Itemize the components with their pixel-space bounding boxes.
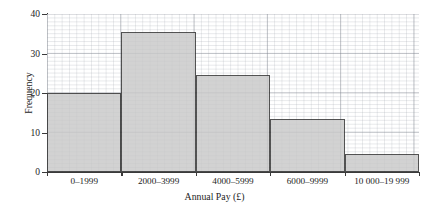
- histogram-bar: [121, 32, 195, 172]
- histogram-bar: [47, 93, 121, 172]
- y-axis-tick-label: 20: [31, 88, 41, 98]
- x-axis-tick: [121, 172, 122, 176]
- x-axis-tick-label: 0–1999: [70, 176, 98, 186]
- x-axis-tick: [47, 172, 48, 176]
- y-axis-tick: [42, 93, 47, 94]
- x-axis-title: Annual Pay (£): [0, 191, 429, 202]
- y-axis-tick: [42, 133, 47, 134]
- x-axis-tick-label: 2000–3999: [138, 176, 179, 186]
- histogram-bar: [345, 154, 419, 172]
- y-axis-tick-label: 30: [31, 49, 41, 59]
- x-axis-tick: [270, 172, 271, 176]
- x-axis-tick: [345, 172, 346, 176]
- x-axis-line: [46, 172, 420, 173]
- y-axis-tick-label: 0: [35, 167, 40, 177]
- y-axis-tick-label: 10: [31, 128, 41, 138]
- histogram-bar: [270, 119, 344, 172]
- x-axis-tick: [196, 172, 197, 176]
- histogram-bar: [196, 75, 270, 172]
- x-axis-tick-label: 10 000–19 999: [354, 176, 409, 186]
- histogram-figure: Frequency 010203040 0–19992000–39994000–…: [0, 0, 429, 211]
- plot-area: 010203040 0–19992000–39994000–59996000–9…: [47, 14, 419, 172]
- x-axis-tick-label: 6000–9999: [287, 176, 328, 186]
- y-axis-tick: [42, 54, 47, 55]
- y-axis-tick: [42, 14, 47, 15]
- x-axis-tick: [419, 172, 420, 176]
- x-axis-tick-label: 4000–5999: [212, 176, 253, 186]
- y-axis-tick-label: 40: [31, 9, 41, 19]
- y-axis-title-container: Frequency: [14, 14, 28, 172]
